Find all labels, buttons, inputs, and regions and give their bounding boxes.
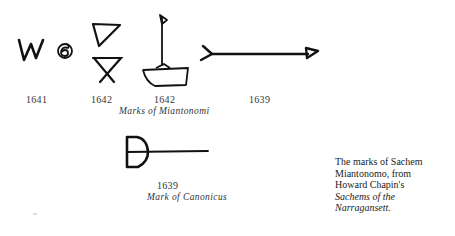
hourglass-mark-icon (93, 58, 121, 82)
spiral-mark-icon (58, 44, 72, 58)
year-label-1642a: 1642 (91, 94, 112, 105)
caption-line-2: Miantonomo, from (335, 168, 422, 180)
year-label-canonicus: 1639 (157, 180, 178, 191)
year-label-1639: 1639 (249, 94, 270, 105)
caption-line-5: Narragansett. (335, 202, 422, 214)
triangle-mark-icon (93, 24, 120, 46)
canonicus-caption: Mark of Canonicus (147, 192, 227, 202)
canonicus-mark-icon (127, 137, 208, 167)
boat-flag-mark-icon (143, 15, 188, 86)
year-label-1641: 1641 (26, 94, 47, 105)
w-mark-icon (19, 40, 43, 60)
caption-line-3: Howard Chapin's (335, 179, 422, 191)
caption-line-1: The marks of Sachem (335, 156, 422, 168)
miantonomi-caption: Marks of Miantonomi (119, 106, 209, 116)
year-label-1642b: 1642 (154, 94, 175, 105)
sidebar-caption: The marks of Sachem Miantonomo, from How… (335, 156, 422, 214)
arrow-mark-icon (201, 46, 318, 60)
caption-line-4: Sachems of the (335, 191, 422, 203)
